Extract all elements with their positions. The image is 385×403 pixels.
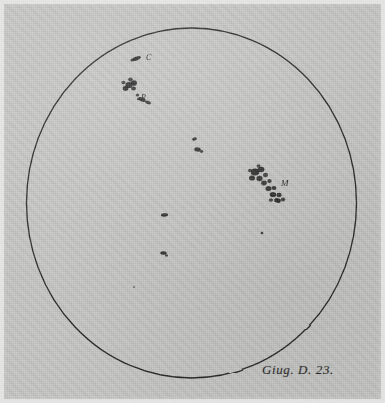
sunspot: [261, 232, 264, 234]
sunspot: [272, 186, 277, 190]
sunspot: [137, 98, 140, 101]
sunspot-group-minor-dots: [133, 232, 263, 288]
sunspot: [281, 198, 285, 202]
sunspot: [249, 175, 255, 180]
solar-limb-circle: [27, 28, 357, 378]
sunspot: [161, 213, 168, 217]
sunspot: [256, 176, 262, 181]
sunspot: [131, 86, 136, 90]
solar-disk-drawing: [0, 0, 385, 403]
sunspot: [128, 78, 133, 82]
sunspot: [131, 80, 137, 85]
sunspot: [270, 192, 276, 197]
solar-limb: [27, 28, 357, 378]
sunspot-group-c: [130, 55, 141, 62]
sunspot: [200, 150, 203, 153]
sunspot-group-r: [122, 78, 152, 106]
sunspot: [165, 254, 168, 256]
sunspot: [276, 193, 281, 197]
sunspot-group-lower-left-pair: [160, 213, 168, 257]
sunspot: [263, 173, 268, 177]
sunspot: [136, 94, 139, 97]
sunspot: [248, 169, 252, 173]
sunspot: [122, 81, 126, 85]
sunspot-group-layer: [122, 55, 286, 288]
sunspot-group-center-pair: [192, 137, 203, 153]
sunspot: [192, 137, 197, 141]
sunspot-label-m: M: [281, 179, 289, 188]
sunspot-label-r: R: [141, 94, 146, 102]
sunspot: [133, 286, 135, 288]
sunspot: [123, 86, 129, 91]
sunspot: [261, 181, 267, 186]
sunspot-label-c: C: [146, 54, 151, 62]
sunspot-group-m: [248, 164, 285, 203]
plate-caption-date: Giug. D. 23.: [262, 362, 334, 378]
sunspot-plate: C R M Giug. D. 23.: [0, 0, 385, 403]
sunspot: [267, 179, 271, 183]
sunspot: [257, 164, 261, 167]
sunspot: [269, 198, 273, 202]
sunspot: [266, 186, 272, 191]
sunspot: [274, 197, 282, 203]
